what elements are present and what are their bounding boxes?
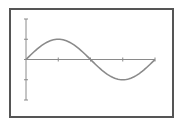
sine-plot [0,0,179,120]
